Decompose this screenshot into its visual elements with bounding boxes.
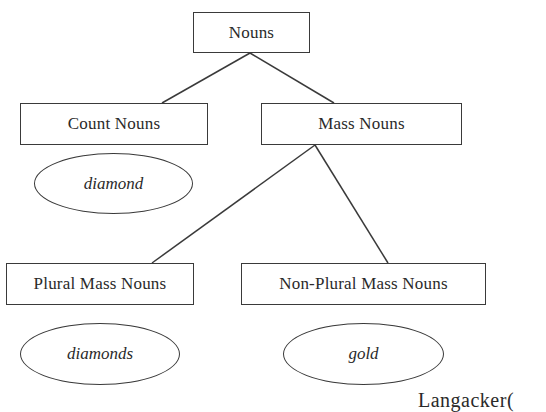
example-gold-label: gold — [348, 344, 378, 364]
example-gold: gold — [283, 323, 444, 385]
edge-nouns-to-count-nouns — [162, 53, 250, 103]
edge-nouns-to-mass-nouns — [250, 53, 334, 103]
example-diamonds-label: diamonds — [67, 344, 133, 364]
node-non-plural-mass-nouns: Non-Plural Mass Nouns — [241, 263, 486, 305]
example-diamonds: diamonds — [20, 323, 180, 385]
example-diamond-label: diamond — [84, 174, 144, 194]
node-nouns: Nouns — [193, 12, 310, 53]
node-count-nouns-label: Count Nouns — [68, 114, 160, 134]
edge-mass-to-plural-mass — [152, 145, 315, 263]
example-diamond: diamond — [34, 153, 193, 214]
source-citation: Langacker( — [418, 389, 514, 412]
node-plural-mass-nouns-label: Plural Mass Nouns — [34, 274, 167, 294]
node-count-nouns: Count Nouns — [20, 103, 208, 145]
edge-mass-to-non-plural-mass — [315, 145, 388, 263]
node-mass-nouns-label: Mass Nouns — [318, 114, 405, 134]
node-plural-mass-nouns: Plural Mass Nouns — [6, 263, 194, 305]
node-nouns-label: Nouns — [229, 23, 274, 43]
node-non-plural-mass-nouns-label: Non-Plural Mass Nouns — [279, 274, 448, 294]
node-mass-nouns: Mass Nouns — [261, 103, 462, 145]
